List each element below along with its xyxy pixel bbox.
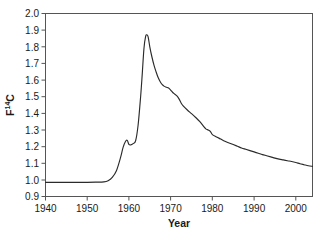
y-tick-label: 1.7 — [25, 58, 39, 69]
y-tick-label: 1.9 — [25, 25, 39, 36]
y-tick-label: 2.0 — [25, 8, 39, 19]
y-tick-label: 1.3 — [25, 125, 39, 136]
y-tick-label: 1.0 — [25, 175, 39, 186]
x-tick-label: 1940 — [34, 203, 57, 214]
y-tick-label: 1.2 — [25, 141, 39, 152]
x-tick-label: 2000 — [285, 203, 308, 214]
figure-container: 2.0 1.9 1.8 1.7 1.6 1.5 1.4 1.3 1.2 1.1 … — [0, 0, 332, 238]
x-tick-label: 1950 — [76, 203, 99, 214]
caption-strip — [0, 228, 332, 238]
x-tick-label: 1980 — [201, 203, 224, 214]
y-tick-label: 1.4 — [25, 108, 39, 119]
y-tick-label: 0.9 — [25, 191, 39, 202]
y-axis-title-superscript: 14 — [4, 102, 11, 110]
x-tick-label: 1970 — [159, 203, 182, 214]
y-tick-label: 1.6 — [25, 75, 39, 86]
x-tick-label: 1990 — [243, 203, 266, 214]
y-tick-label: 1.5 — [25, 91, 39, 102]
y-axis-title-suffix: C — [4, 94, 16, 102]
line-chart: 2.0 1.9 1.8 1.7 1.6 1.5 1.4 1.3 1.2 1.1 … — [0, 0, 332, 238]
x-tick-label: 1960 — [118, 203, 141, 214]
y-tick-label: 1.1 — [25, 158, 39, 169]
y-tick-label: 1.8 — [25, 42, 39, 53]
